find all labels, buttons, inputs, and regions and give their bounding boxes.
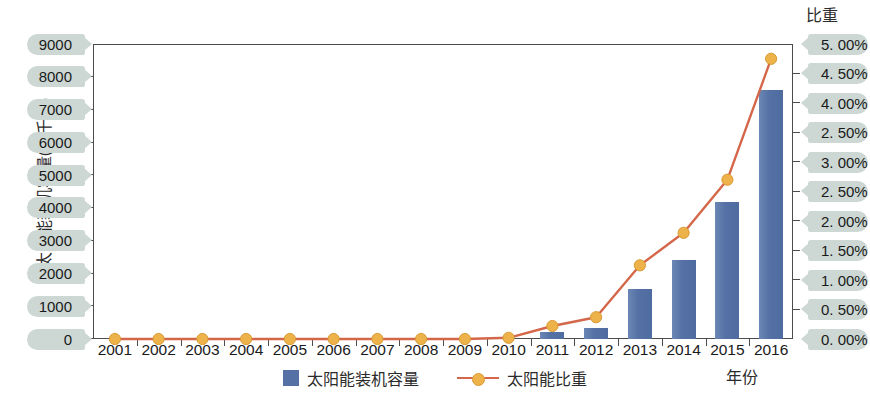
secondary-y-axis-tick-label: 0. 50% <box>808 299 868 320</box>
secondary-y-axis-tick <box>792 250 800 251</box>
x-axis-tick-label: 2016 <box>745 341 797 359</box>
y-axis-tick-label: 5000 <box>27 165 85 186</box>
y-axis-tick-label: 1000 <box>27 296 85 317</box>
secondary-y-axis-tick-label: 2. 50% <box>808 181 868 202</box>
bar <box>628 289 652 339</box>
legend-line-marker-icon <box>457 370 499 386</box>
y-axis-tick-label: 7000 <box>27 99 85 120</box>
secondary-y-axis-tick-label: 0. 00% <box>808 329 868 350</box>
chart-container: 太阳能装机容量(万千瓦) 比重 年份 900080007000600050004… <box>0 0 870 393</box>
legend-item-share: 太阳能比重 <box>457 366 587 390</box>
secondary-y-axis-tick-label: 2. 00% <box>808 211 868 232</box>
legend-bar-swatch-icon <box>283 370 299 386</box>
y-axis-tick-label: 9000 <box>27 34 85 55</box>
secondary-y-axis-tick <box>792 161 800 162</box>
secondary-y-axis-title: 比重 <box>806 2 838 26</box>
legend-item-capacity: 太阳能装机容量 <box>283 366 419 390</box>
bar <box>672 260 696 339</box>
secondary-y-axis-tick <box>792 279 800 280</box>
secondary-y-axis-tick-label: 1. 50% <box>808 240 868 261</box>
secondary-y-axis-tick-label: 5. 00% <box>808 34 868 55</box>
y-axis-tick-label: 2000 <box>27 263 85 284</box>
secondary-y-axis-tick-label: 1. 00% <box>808 270 868 291</box>
secondary-y-axis-tick <box>792 73 800 74</box>
secondary-y-axis-tick <box>792 191 800 192</box>
secondary-y-axis-tick <box>792 102 800 103</box>
bar <box>715 202 739 339</box>
legend-label-capacity: 太阳能装机容量 <box>307 366 419 390</box>
bar <box>540 332 564 339</box>
y-axis-tick-label: 0 <box>27 329 85 350</box>
secondary-y-axis-tick-label: 4. 00% <box>808 93 868 114</box>
secondary-y-axis-tick <box>792 220 800 221</box>
legend-label-share: 太阳能比重 <box>507 366 587 390</box>
secondary-y-axis-tick <box>792 132 800 133</box>
y-axis-tick-label: 4000 <box>27 197 85 218</box>
y-axis-tick-label: 3000 <box>27 230 85 251</box>
secondary-y-axis-tick-label: 3. 00% <box>808 152 868 173</box>
secondary-y-axis-tick <box>792 309 800 310</box>
secondary-y-axis-tick-label: 4. 50% <box>808 63 868 84</box>
y-axis-tick-label: 6000 <box>27 132 85 153</box>
y-axis-tick-label: 8000 <box>27 66 85 87</box>
secondary-y-axis-tick-label: 2. 50% <box>808 122 868 143</box>
chart-legend: 太阳能装机容量 太阳能比重 <box>0 366 870 390</box>
bar <box>584 328 608 339</box>
bar <box>759 90 783 339</box>
